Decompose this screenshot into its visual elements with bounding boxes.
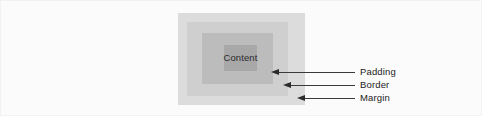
padding-arrow-icon: [271, 69, 279, 75]
border-box: Content: [187, 22, 288, 96]
padding-leader-line: [279, 72, 355, 73]
content-box: Content: [224, 45, 257, 71]
padding-callout-label: Padding: [360, 67, 396, 77]
border-leader-line: [291, 85, 355, 86]
padding-box: Content: [202, 33, 273, 84]
margin-leader-line: [305, 98, 355, 99]
margin-arrow-icon: [297, 95, 305, 101]
box-model-figure: Content Padding Border Margin: [0, 0, 482, 116]
border-callout-label: Border: [360, 80, 389, 90]
margin-callout-label: Margin: [360, 93, 390, 103]
border-arrow-icon: [283, 82, 291, 88]
content-box-label: Content: [224, 53, 258, 63]
margin-box: Content: [178, 13, 305, 105]
